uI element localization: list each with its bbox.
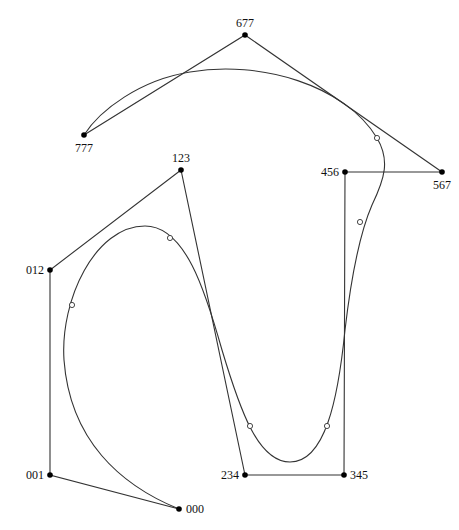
control-point-label-567: 567 [433, 178, 451, 192]
curve-knot-markers [69, 135, 379, 428]
control-point-label-012: 012 [26, 263, 44, 277]
knot-marker-1 [69, 302, 74, 307]
knot-marker-2 [167, 235, 172, 240]
knot-marker-4 [324, 423, 329, 428]
control-point-label-777: 777 [75, 141, 93, 155]
control-point-012 [47, 267, 53, 273]
spline-diagram: 000001012123234345456567677777 [0, 0, 459, 530]
control-point-label-000: 000 [186, 502, 204, 516]
control-point-label-001: 001 [26, 468, 44, 482]
knot-marker-3 [247, 423, 252, 428]
knot-marker-6 [374, 135, 379, 140]
control-point-labels: 000001012123234345456567677777 [26, 16, 451, 516]
knot-marker-5 [357, 219, 362, 224]
control-point-123 [178, 167, 184, 173]
control-polygon [50, 35, 442, 509]
control-point-345 [341, 472, 347, 478]
control-point-label-456: 456 [321, 165, 339, 179]
spline-curve [64, 69, 385, 509]
control-point-000 [176, 506, 182, 512]
control-point-label-234: 234 [221, 468, 239, 482]
control-point-677 [242, 32, 248, 38]
control-point-label-677: 677 [236, 16, 254, 30]
control-point-567 [439, 169, 445, 175]
control-point-label-345: 345 [350, 468, 368, 482]
control-point-234 [242, 472, 248, 478]
diagram-canvas: 000001012123234345456567677777 [0, 0, 459, 530]
control-point-456 [342, 169, 348, 175]
control-point-label-123: 123 [172, 151, 190, 165]
control-point-001 [47, 472, 53, 478]
control-point-777 [81, 132, 87, 138]
control-points [47, 32, 445, 512]
